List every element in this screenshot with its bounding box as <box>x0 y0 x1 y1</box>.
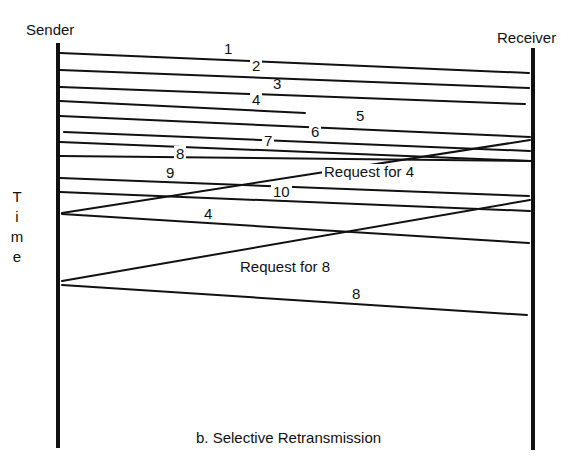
diagram-caption: b. Selective Retransmission <box>196 429 381 446</box>
frame-4-lost-line <box>60 101 305 113</box>
time-letter: m <box>10 227 24 247</box>
frame-9-line <box>60 178 529 196</box>
sequence-diagram-lines <box>0 0 570 463</box>
request-8-label: Request for 8 <box>238 259 332 274</box>
time-letter: i <box>10 207 24 227</box>
time-axis-label: T i m e <box>10 187 24 267</box>
frame-4-label: 4 <box>250 92 262 107</box>
sender-label: Sender <box>26 22 74 37</box>
frame-2-label: 2 <box>250 58 262 73</box>
frame-9-label: 9 <box>164 165 176 180</box>
frame-7-label: 7 <box>262 133 274 148</box>
receiver-label: Receiver <box>497 30 556 45</box>
frame-1-line <box>60 53 529 73</box>
frame-1-label: 1 <box>222 41 234 56</box>
frame-6-label: 6 <box>309 124 321 139</box>
request-4-label: Request for 4 <box>322 164 416 179</box>
retransmit-8-label: 8 <box>350 286 362 301</box>
frame-3-label: 3 <box>271 76 283 91</box>
time-letter: e <box>10 247 24 267</box>
retransmit-4-line <box>62 214 529 243</box>
retransmit-8-line <box>62 285 527 315</box>
frame-10-label: 10 <box>271 184 292 199</box>
frame-3-line <box>60 87 525 104</box>
retransmit-4-label: 4 <box>202 206 214 221</box>
frame-8-label: 8 <box>174 146 186 161</box>
frame-5-label: 5 <box>354 108 366 123</box>
frame-2-line <box>60 70 529 88</box>
time-letter: T <box>10 187 24 207</box>
